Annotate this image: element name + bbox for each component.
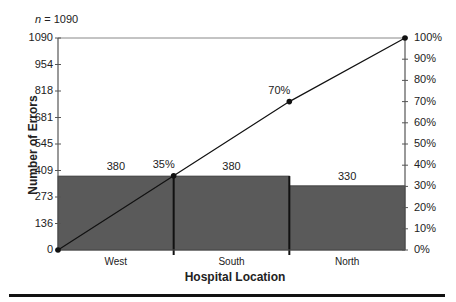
x-tick-label: South bbox=[174, 256, 290, 267]
cumulative-percent-label: 35% bbox=[144, 158, 184, 170]
bar-value-label: 330 bbox=[289, 170, 405, 182]
y-axis-title: Number of Errors bbox=[26, 80, 40, 210]
bottom-rule bbox=[9, 294, 445, 297]
cumulative-percent-label: 70% bbox=[259, 84, 299, 96]
bars bbox=[58, 176, 405, 255]
bar-south bbox=[174, 176, 290, 250]
bar-value-label: 380 bbox=[174, 160, 290, 172]
x-axis-title: Hospital Location bbox=[160, 270, 310, 284]
x-tick-label: West bbox=[58, 256, 174, 267]
x-tick-label: North bbox=[289, 256, 405, 267]
bar-north bbox=[289, 186, 405, 250]
